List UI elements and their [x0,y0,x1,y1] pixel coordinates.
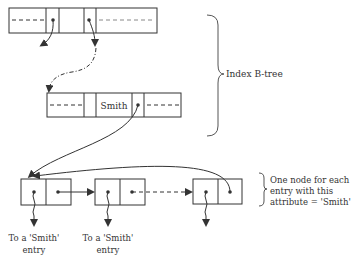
btree-label: Index B-tree [226,69,283,79]
list-brace-label-line3: attribute = 'Smith' [270,197,351,207]
pointer-dot [228,190,232,194]
top-btree-node [9,8,157,33]
child-pointer-arrow [89,20,95,44]
index-diagram: Smith Index B-tree To a 'Smith' entry To… [0,0,354,260]
entry-label-2-line2: entry [97,245,120,255]
key-smith: Smith [101,101,128,111]
entry-pointer-arrow [205,192,207,224]
entry-pointer-arrow [33,192,35,224]
list-brace-label-line1: One node for each [270,175,350,185]
btree-brace [207,15,224,136]
entry-pointer-arrow [107,192,109,224]
entry-label-1-line1: To a 'Smith' [9,233,60,243]
list-node-2 [95,179,145,205]
list-brace-label-line2: entry with this [270,186,333,196]
tree-descent-path [49,48,96,90]
entry-label-2-line1: To a 'Smith' [83,233,134,243]
list-brace [259,173,267,206]
entry-label-1-line2: entry [23,245,46,255]
list-node-3 [193,179,242,204]
